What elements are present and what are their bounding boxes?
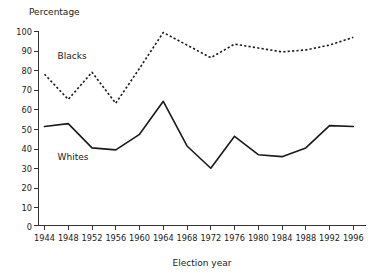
y-tick-label: 80 (22, 66, 32, 76)
x-tick-1956: 1956 (105, 226, 126, 244)
y-tick-0: 0 (27, 222, 39, 232)
x-tick-label: 1992 (319, 233, 340, 243)
y-tick-100: 100 (16, 27, 38, 37)
x-axis-title: Election year (173, 258, 232, 268)
y-tick-70: 70 (22, 85, 39, 95)
line-chart: Percentage 100 90 80 70 6 (0, 0, 376, 274)
y-tick-10: 10 (22, 203, 39, 213)
y-tick-label: 100 (16, 27, 32, 37)
x-tick-label: 1984 (272, 233, 293, 243)
series-label-whites: Whites (58, 152, 89, 162)
y-tick-label: 10 (22, 203, 32, 213)
y-tick-label: 90 (22, 46, 32, 56)
chart-canvas: Percentage 100 90 80 70 6 (0, 0, 376, 274)
y-axis-ticks: 100 90 80 70 60 50 (16, 27, 38, 233)
x-tick-label: 1960 (129, 233, 150, 243)
x-tick-1984: 1984 (272, 226, 293, 244)
y-tick-label: 0 (27, 222, 32, 232)
x-tick-1952: 1952 (82, 226, 103, 244)
x-tick-label: 1968 (177, 233, 198, 243)
x-tick-1972: 1972 (200, 226, 221, 244)
x-tick-label: 1988 (295, 233, 316, 243)
x-tick-1988: 1988 (295, 226, 316, 244)
y-tick-80: 80 (22, 66, 39, 76)
x-axis-ticks: 1944 1948 1952 1956 1960 1964 (34, 226, 364, 244)
x-tick-1980: 1980 (248, 226, 269, 244)
y-tick-label: 70 (22, 85, 32, 95)
x-tick-1968: 1968 (177, 226, 198, 244)
y-tick-60: 60 (22, 105, 39, 115)
y-tick-30: 30 (22, 164, 39, 174)
y-tick-20: 20 (22, 183, 39, 193)
series-line-whites (45, 101, 354, 168)
y-tick-label: 20 (22, 183, 32, 193)
x-tick-1996: 1996 (343, 226, 364, 244)
y-tick-label: 30 (22, 164, 32, 174)
x-tick-label: 1948 (58, 233, 79, 243)
x-tick-label: 1964 (153, 233, 174, 243)
series-label-blacks: Blacks (58, 51, 87, 61)
x-tick-label: 1952 (82, 233, 103, 243)
y-axis-title: Percentage (29, 7, 80, 17)
y-tick-50: 50 (22, 125, 39, 135)
x-tick-1948: 1948 (58, 226, 79, 244)
x-tick-1944: 1944 (34, 226, 55, 244)
x-tick-label: 1980 (248, 233, 269, 243)
x-tick-1992: 1992 (319, 226, 340, 244)
x-tick-1964: 1964 (153, 226, 174, 244)
y-tick-label: 40 (22, 144, 32, 154)
x-tick-label: 1944 (34, 233, 55, 243)
y-tick-40: 40 (22, 144, 39, 154)
y-tick-label: 60 (22, 105, 32, 115)
x-tick-label: 1976 (224, 233, 245, 243)
x-tick-label: 1972 (200, 233, 221, 243)
x-tick-1976: 1976 (224, 226, 245, 244)
x-tick-label: 1996 (343, 233, 364, 243)
series-line-blacks (45, 32, 354, 103)
y-tick-90: 90 (22, 46, 39, 56)
x-tick-1960: 1960 (129, 226, 150, 244)
y-tick-label: 50 (22, 125, 32, 135)
x-tick-label: 1956 (105, 233, 126, 243)
